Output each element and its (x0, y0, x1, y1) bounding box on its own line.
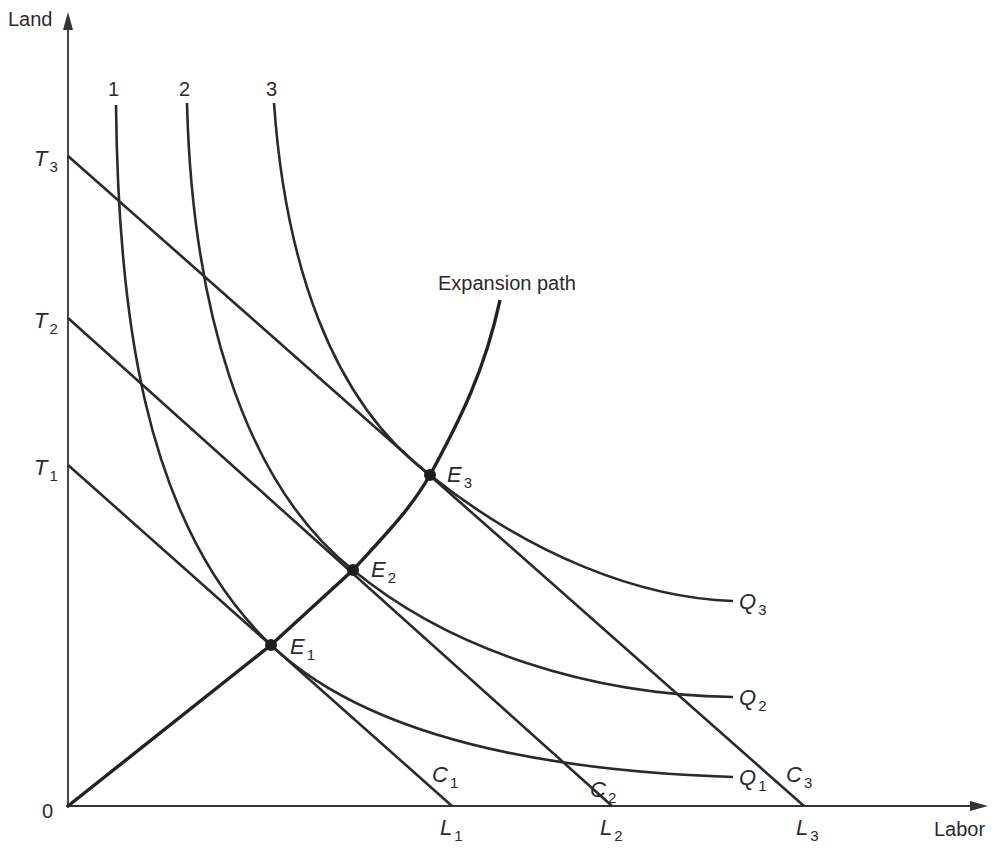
isoquant-1-top-label: 1 (108, 78, 119, 100)
y-axis-label: Land (8, 8, 53, 30)
equilibrium-point-e3 (424, 469, 436, 481)
isoquant-1 (116, 105, 733, 777)
c1-label: C1 (432, 762, 458, 791)
t2-label: T2 (34, 308, 58, 337)
production-expansion-diagram: Land Labor 0 1 2 3 Expansion path T3 T2 … (0, 0, 1004, 852)
e1-label: E1 (290, 634, 315, 663)
expansion-path-label: Expansion path (438, 272, 576, 294)
origin-label: 0 (42, 800, 53, 822)
c2-label: C2 (590, 777, 616, 806)
isoquant-2 (187, 103, 733, 697)
l2-label: L2 (600, 815, 623, 844)
isoquant-3-top-label: 3 (266, 78, 277, 100)
equilibrium-point-e2 (347, 564, 359, 576)
e2-label: E2 (371, 557, 396, 586)
c3-label: C3 (786, 762, 812, 791)
l3-label: L3 (796, 815, 819, 844)
y-axis-arrow-icon (63, 12, 73, 30)
isocost-line-c2 (68, 318, 612, 806)
l1-label: L1 (440, 815, 463, 844)
isoquant-3 (274, 103, 733, 601)
x-axis-arrow-icon (970, 801, 988, 811)
e3-label: E3 (447, 462, 472, 491)
equilibrium-point-e1 (265, 639, 277, 651)
axes: Land Labor 0 (8, 8, 988, 840)
isoquant-2-top-label: 2 (179, 78, 190, 100)
q3-label: Q3 (739, 589, 766, 618)
x-axis-label: Labor (934, 818, 985, 840)
t1-label: T1 (34, 455, 58, 484)
isoquants (116, 103, 733, 777)
t3-label: T3 (34, 146, 58, 175)
q2-label: Q2 (739, 685, 766, 714)
